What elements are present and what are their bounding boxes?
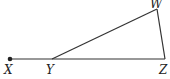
triangle-diagram: X Y Z W xyxy=(0,0,170,79)
label-z: Z xyxy=(158,63,168,77)
point-x-dot xyxy=(8,57,13,62)
label-y: Y xyxy=(46,63,55,77)
label-w: W xyxy=(150,0,164,11)
segment-yw xyxy=(52,9,157,59)
segment-wz xyxy=(157,9,165,59)
label-x: X xyxy=(3,63,13,77)
